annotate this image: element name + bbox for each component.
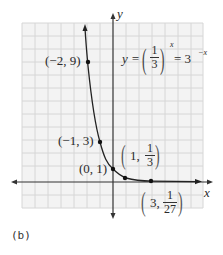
figure-caption: (b) <box>11 229 31 242</box>
y-axis-label: y <box>117 6 123 22</box>
y-axis-down-arrow-icon <box>111 213 116 219</box>
x-axis-label: x <box>204 185 210 201</box>
x-axis-right-arrow-icon <box>207 180 213 185</box>
x-axis-left-arrow-icon <box>11 180 17 185</box>
point-label-0-1: (0, 1) <box>79 161 107 177</box>
graph <box>0 0 223 255</box>
y-axis-up-arrow-icon <box>111 13 116 19</box>
point-label-neg1-3: (−1, 3) <box>58 133 94 149</box>
point-label-neg2-9: (−2, 9) <box>45 53 81 69</box>
